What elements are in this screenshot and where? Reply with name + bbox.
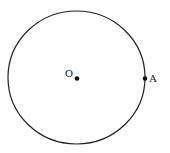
diagram-canvas: O A: [0, 0, 170, 153]
center-point-o: [75, 76, 80, 81]
point-a: [143, 76, 148, 81]
circle-figure: [0, 0, 170, 153]
label-a: A: [149, 73, 157, 84]
label-o: O: [65, 68, 73, 79]
